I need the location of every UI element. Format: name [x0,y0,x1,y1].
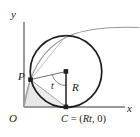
point-label-C-coord-y: , 0) [92,113,106,124]
point-label-C-name: C [61,113,68,124]
point-label-P: P [18,71,25,82]
angle-label-t: t [51,81,54,91]
x-axis-label: x [127,103,132,114]
origin-label: O [9,113,17,124]
angle-arc-t [52,75,66,86]
point-label-C: C = (Rt, 0) [61,114,106,125]
point-marker-C [64,105,69,110]
radius-label-R: R [72,82,79,93]
point-marker-P [28,77,33,82]
point-label-C-coord-x: Rt [83,113,92,124]
point-marker-center [64,69,69,74]
point-label-C-equals: = ( [68,113,83,124]
y-axis-label: y [11,9,16,20]
cycloid-figure: y x O P t R C = (Rt, 0) [0,0,140,137]
